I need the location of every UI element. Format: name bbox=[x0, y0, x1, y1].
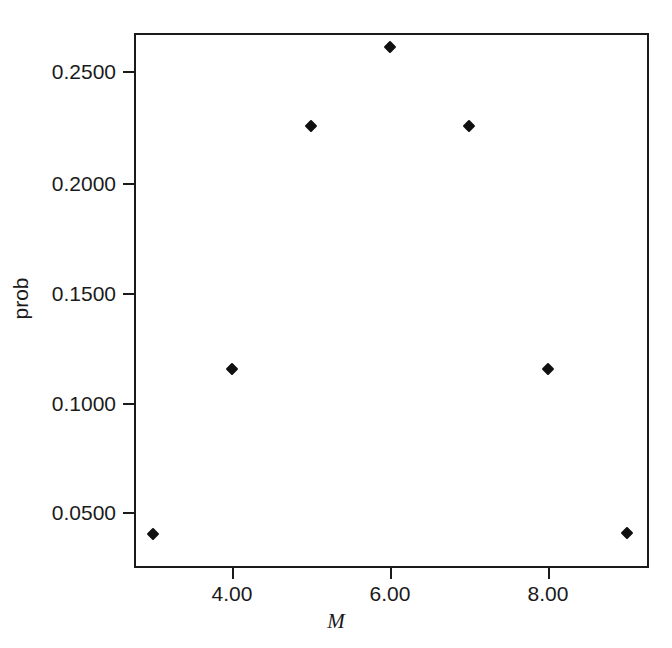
x-axis-title: M bbox=[0, 611, 672, 632]
y-tick-label: 0.2500 bbox=[6, 61, 116, 82]
y-tick-mark bbox=[123, 512, 134, 514]
y-tick-label: 0.1000 bbox=[6, 393, 116, 414]
x-tick-mark bbox=[390, 568, 392, 579]
chart-figure: 0.2500 0.2000 0.1500 0.1000 0.0500 prob … bbox=[0, 0, 672, 648]
x-tick-mark bbox=[548, 568, 550, 579]
y-tick-label: 0.2000 bbox=[6, 173, 116, 194]
y-tick-label: 0.0500 bbox=[6, 502, 116, 523]
y-tick-mark bbox=[123, 183, 134, 185]
x-tick-mark bbox=[232, 568, 234, 579]
x-tick-label: 6.00 bbox=[345, 583, 435, 604]
x-tick-label: 8.00 bbox=[503, 583, 593, 604]
y-tick-mark bbox=[123, 403, 134, 405]
y-tick-mark bbox=[123, 293, 134, 295]
figure-caption bbox=[0, 640, 672, 648]
plot-area bbox=[134, 33, 649, 568]
x-tick-label: 4.00 bbox=[187, 583, 277, 604]
y-axis-title: prob bbox=[10, 254, 31, 344]
y-tick-mark bbox=[123, 71, 134, 73]
